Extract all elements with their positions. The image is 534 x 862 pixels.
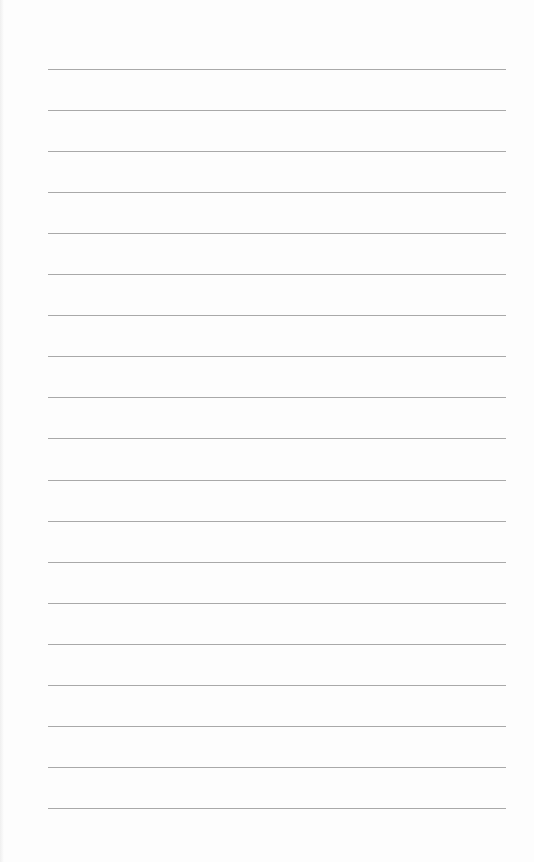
- ruled-line: [48, 767, 506, 768]
- ruled-line: [48, 397, 506, 398]
- page-edge-shadow: [0, 0, 4, 862]
- ruled-line: [48, 315, 506, 316]
- ruled-line: [48, 521, 506, 522]
- ruled-line: [48, 726, 506, 727]
- ruled-line: [48, 808, 506, 809]
- ruled-line: [48, 192, 506, 193]
- ruled-line: [48, 69, 506, 70]
- ruled-line: [48, 356, 506, 357]
- ruled-line: [48, 151, 506, 152]
- ruled-line: [48, 110, 506, 111]
- ruled-line: [48, 438, 506, 439]
- ruled-line: [48, 603, 506, 604]
- ruled-line: [48, 562, 506, 563]
- ruled-line: [48, 685, 506, 686]
- ruled-line: [48, 274, 506, 275]
- ruled-line: [48, 233, 506, 234]
- ruled-line: [48, 480, 506, 481]
- ruled-line: [48, 644, 506, 645]
